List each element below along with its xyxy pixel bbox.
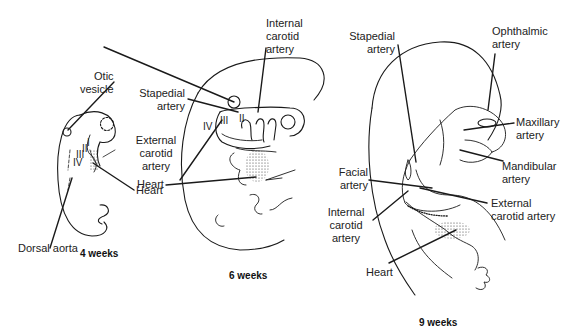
label-mandibular: Mandibular artery xyxy=(502,160,556,186)
label-line: carotid xyxy=(130,147,182,160)
label-heart-6w: Heart xyxy=(137,178,164,191)
label-line: Otic xyxy=(80,70,114,83)
label-line: Ophthalmic xyxy=(492,25,548,38)
label-line: Stapedial xyxy=(133,87,185,100)
label-line: Maxillary xyxy=(516,116,559,129)
label-ophthalmic: Ophthalmic artery xyxy=(492,25,548,51)
label-line: artery xyxy=(492,38,548,51)
label-line: artery xyxy=(322,179,368,192)
label-dorsal-aorta: Dorsal aorta xyxy=(18,242,78,255)
label-external-carotid-9w: External carotid artery xyxy=(491,197,555,223)
label-facial: Facial artery xyxy=(322,166,368,192)
label-maxillary: Maxillary artery xyxy=(516,116,559,142)
embryo-4-weeks xyxy=(50,82,134,248)
label-line: artery xyxy=(345,43,395,56)
label-line: Stapedial xyxy=(345,30,395,43)
label-line: vesicle xyxy=(80,83,114,96)
label-line: artery xyxy=(322,232,370,245)
label-heart-9w: Heart xyxy=(366,266,393,279)
label-line: carotid xyxy=(322,219,370,232)
label-internal-carotid-9w: Internal carotid artery xyxy=(322,206,370,245)
caption-6-weeks: 6 weeks xyxy=(229,270,267,281)
label-stapedial-9w: Stapedial artery xyxy=(345,30,395,56)
arch-numeral-IV: IV xyxy=(203,122,212,132)
label-external-carotid-6w: External carotid artery xyxy=(130,134,182,173)
label-line: Facial xyxy=(322,166,368,179)
label-line: carotid artery xyxy=(491,210,555,223)
arch-numeral-II: II xyxy=(239,114,245,124)
label-line: artery xyxy=(130,160,182,173)
arch-numeral-III: III xyxy=(220,116,228,126)
label-line: artery xyxy=(516,129,559,142)
label-line: carotid xyxy=(266,30,303,43)
label-otic-vesicle: Otic vesicle xyxy=(80,70,114,96)
label-line: Mandibular xyxy=(502,160,556,173)
arch-numeral-IV: IV xyxy=(73,158,82,168)
label-stapedial-6w: Stapedial artery xyxy=(133,87,185,113)
caption-9-weeks: 9 weeks xyxy=(419,317,457,328)
label-internal-carotid-6w: Internal carotid artery xyxy=(266,17,303,56)
caption-4-weeks: 4 weeks xyxy=(80,248,118,259)
label-line: artery xyxy=(502,173,556,186)
label-line: Internal xyxy=(322,206,370,219)
label-line: artery xyxy=(266,43,303,56)
label-line: Internal xyxy=(266,17,303,30)
embryo-9-weeks xyxy=(369,42,514,295)
label-line: External xyxy=(130,134,182,147)
label-line: External xyxy=(491,197,555,210)
label-line: artery xyxy=(133,100,185,113)
